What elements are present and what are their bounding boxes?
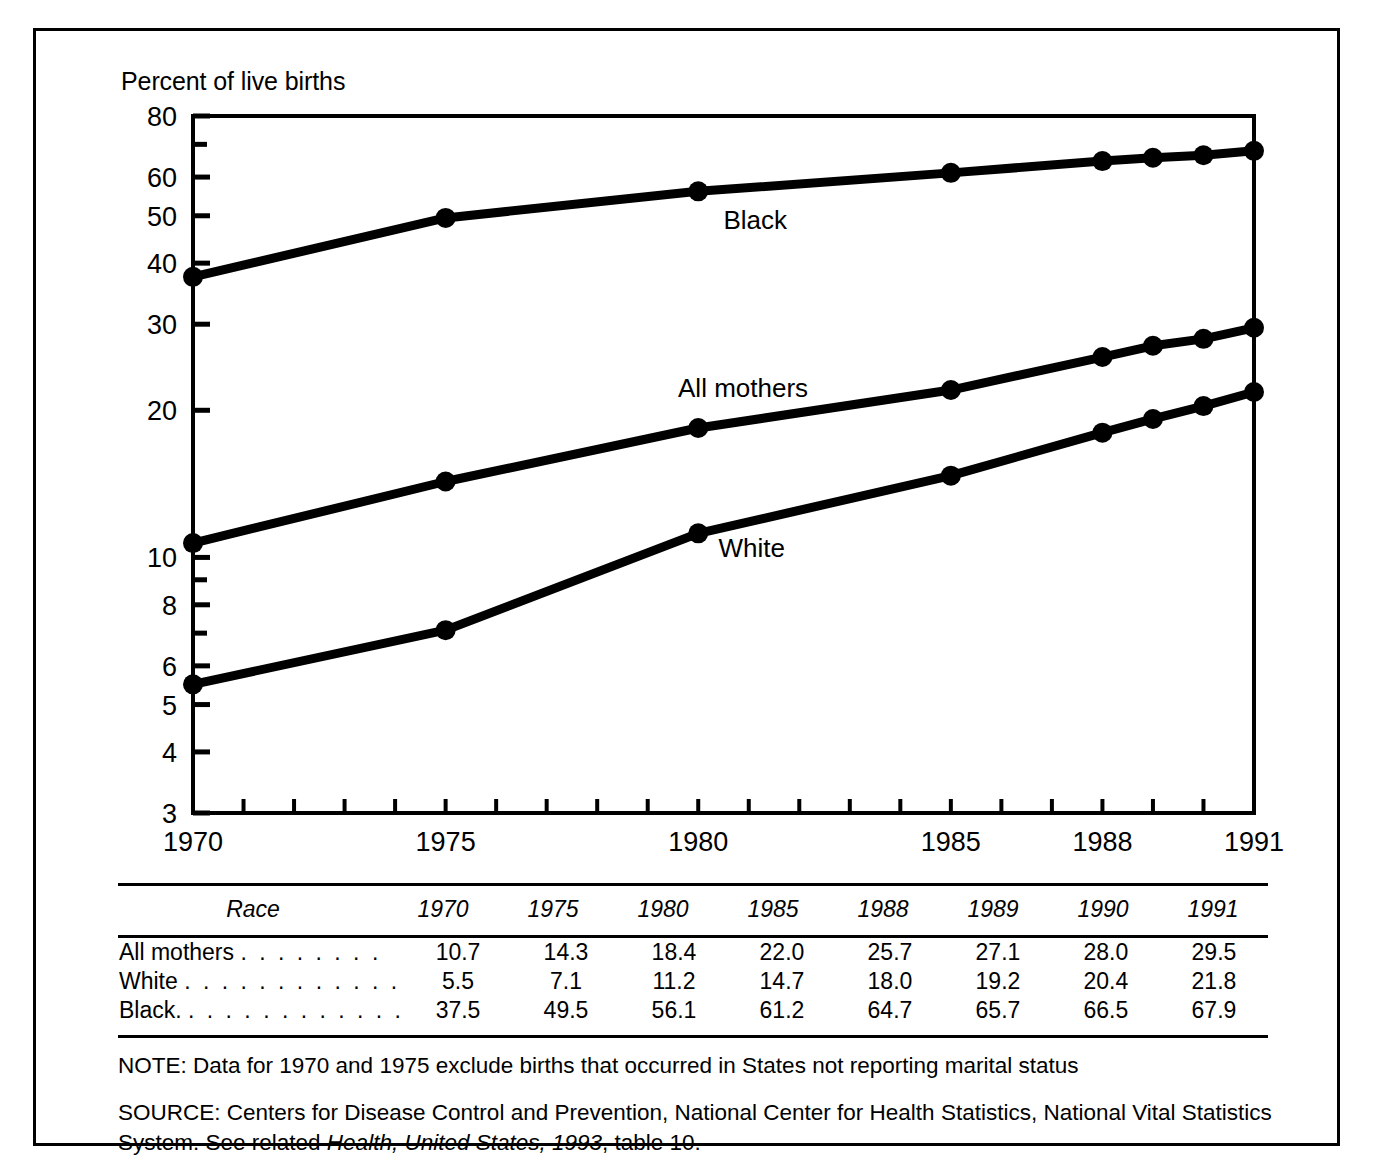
x-tick-label: 1975: [416, 827, 476, 851]
table-cell: 18.4: [620, 938, 728, 967]
data-table-body-wrap: All mothers . . . . . . . .10.714.318.42…: [118, 938, 1268, 1025]
x-tick-label: 1988: [1072, 827, 1132, 851]
table-cell: 19.2: [944, 967, 1052, 996]
table-cell: 14.7: [728, 967, 836, 996]
y-tick-label: 40: [147, 249, 177, 279]
table-cell: 22.0: [728, 938, 836, 967]
y-tick-label: 20: [147, 396, 177, 426]
data-point-marker: [941, 163, 961, 183]
table-cell: 18.0: [836, 967, 944, 996]
row-label-leader: . . . . . . . . . . . .: [184, 968, 400, 994]
data-point-marker: [1092, 423, 1112, 443]
table-header-1990: 1990: [1048, 886, 1158, 935]
x-tick-label: 1970: [163, 827, 223, 851]
data-point-marker: [183, 533, 203, 553]
data-point-marker: [1143, 336, 1163, 356]
table-row: All mothers . . . . . . . .10.714.318.42…: [118, 938, 1268, 967]
table-row: Black. . . . . . . . . . . . .37.549.556…: [118, 996, 1268, 1025]
data-point-marker: [1244, 141, 1264, 161]
data-point-marker: [1143, 409, 1163, 429]
series-label-all-mothers: All mothers: [678, 373, 808, 403]
table-cell: 66.5: [1052, 996, 1160, 1025]
table-row-label: All mothers . . . . . . . .: [118, 938, 404, 967]
data-point-marker: [688, 523, 708, 543]
table-header-1991: 1991: [1158, 886, 1268, 935]
table-rule-bottom: [118, 1035, 1268, 1038]
table-cell: 67.9: [1160, 996, 1268, 1025]
note-text: NOTE: Data for 1970 and 1975 exclude bir…: [118, 1051, 1288, 1080]
table-cell: 11.2: [620, 967, 728, 996]
table-row: White . . . . . . . . . . . .5.57.111.21…: [118, 967, 1268, 996]
x-tick-label: 1985: [921, 827, 981, 851]
line-chart-svg: 8060504030201086543197019751980198519881…: [36, 31, 1343, 851]
table-header-race: Race: [118, 886, 388, 935]
table-header-1975: 1975: [498, 886, 608, 935]
y-tick-label: 30: [147, 310, 177, 340]
data-point-marker: [688, 181, 708, 201]
table-cell: 25.7: [836, 938, 944, 967]
y-tick-label: 50: [147, 202, 177, 232]
source-suffix: , table 10.: [602, 1130, 701, 1155]
y-tick-label: 80: [147, 102, 177, 132]
table-cell: 65.7: [944, 996, 1052, 1025]
data-point-marker: [688, 418, 708, 438]
table-row-label: Black. . . . . . . . . . . . .: [118, 996, 404, 1025]
y-tick-label: 4: [162, 738, 177, 768]
data-point-marker: [183, 267, 203, 287]
y-tick-label: 8: [162, 591, 177, 621]
table-header-1989: 1989: [938, 886, 1048, 935]
table-cell: 49.5: [512, 996, 620, 1025]
data-point-marker: [436, 620, 456, 640]
data-point-marker: [1143, 148, 1163, 168]
table-header-1980: 1980: [608, 886, 718, 935]
y-tick-label: 5: [162, 691, 177, 721]
data-point-marker: [1244, 318, 1264, 338]
series-label-black: Black: [724, 205, 789, 235]
data-point-marker: [436, 472, 456, 492]
figure-frame: Percent of live births 80605040302010865…: [33, 28, 1340, 1146]
data-point-marker: [1193, 329, 1213, 349]
notes-block: NOTE: Data for 1970 and 1975 exclude bir…: [118, 1051, 1288, 1157]
source-text: SOURCE: Centers for Disease Control and …: [118, 1098, 1288, 1157]
data-point-marker: [436, 208, 456, 228]
row-label-leader: . . . . . . . . . . . .: [188, 997, 404, 1023]
row-label-text: Black.: [119, 997, 188, 1023]
data-point-marker: [941, 466, 961, 486]
table-cell: 64.7: [836, 996, 944, 1025]
x-tick-label: 1991: [1224, 827, 1284, 851]
table-cell: 10.7: [404, 938, 512, 967]
x-tick-label: 1980: [668, 827, 728, 851]
y-tick-label: 60: [147, 163, 177, 193]
table-cell: 29.5: [1160, 938, 1268, 967]
table-cell: 14.3: [512, 938, 620, 967]
table-cell: 20.4: [1052, 967, 1160, 996]
table-cell: 28.0: [1052, 938, 1160, 967]
table-cell: 7.1: [512, 967, 620, 996]
row-label-text: White: [119, 968, 184, 994]
table-cell: 5.5: [404, 967, 512, 996]
table-cell: 61.2: [728, 996, 836, 1025]
y-tick-label: 10: [147, 543, 177, 573]
data-point-marker: [1092, 151, 1112, 171]
series-label-white: White: [718, 533, 784, 563]
y-tick-label: 3: [162, 799, 177, 829]
table-header-row: Race 1970 1975 1980 1985 1988 1989 1990 …: [118, 886, 1268, 935]
table-cell: 56.1: [620, 996, 728, 1025]
table-body: All mothers . . . . . . . .10.714.318.42…: [118, 938, 1268, 1025]
row-label-leader: . . . . . . . .: [240, 939, 381, 965]
chart-area: Percent of live births 80605040302010865…: [36, 31, 1343, 851]
table-cell: 37.5: [404, 996, 512, 1025]
data-table: Race 1970 1975 1980 1985 1988 1989 1990 …: [118, 886, 1268, 935]
table-head: Race 1970 1975 1980 1985 1988 1989 1990 …: [118, 886, 1268, 935]
source-italic-title: Health, United States, 1993: [327, 1130, 602, 1155]
data-table-block: Race 1970 1975 1980 1985 1988 1989 1990 …: [118, 883, 1268, 1038]
axis-group: 8060504030201086543197019751980198519881…: [147, 102, 1284, 851]
table-cell: 27.1: [944, 938, 1052, 967]
data-point-marker: [183, 674, 203, 694]
table-header-1988: 1988: [828, 886, 938, 935]
data-point-marker: [1092, 347, 1112, 367]
table-header-1970: 1970: [388, 886, 498, 935]
data-point-marker: [1244, 382, 1264, 402]
data-point-marker: [1193, 396, 1213, 416]
table-cell: 21.8: [1160, 967, 1268, 996]
